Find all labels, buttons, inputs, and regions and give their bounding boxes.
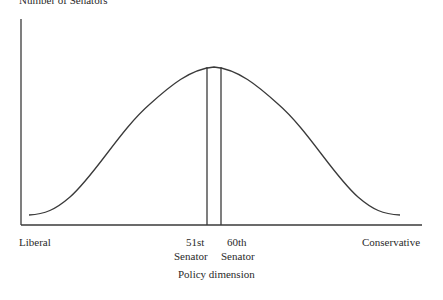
senator-distribution-curve — [29, 67, 400, 215]
marker1-label-line1: 51st — [186, 236, 204, 249]
marker2-label-line1: 60th — [227, 236, 247, 249]
marker2-label-line2: Senator — [221, 250, 255, 263]
marker1-label-line2: Senator — [174, 250, 208, 263]
x-axis-label: Policy dimension — [178, 268, 255, 281]
left-end-label: Liberal — [19, 236, 51, 249]
right-end-label: Conservative — [362, 236, 420, 249]
y-axis-label: Number of Senators — [19, 0, 108, 7]
